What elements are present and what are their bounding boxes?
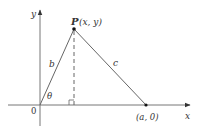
origin-label: 0	[31, 106, 36, 116]
right-angle-marker	[69, 100, 74, 105]
side-c-label: c	[113, 58, 118, 68]
side-b-label: b	[49, 59, 55, 69]
point-p-coords: (x, y)	[79, 17, 102, 27]
side-b-line	[40, 29, 74, 105]
point-a-label: (a, 0)	[136, 112, 159, 122]
y-axis-label: y	[30, 9, 37, 19]
triangle-diagram: y x 0 P (x, y) (a, 0) b c θ	[0, 0, 201, 128]
point-p-name: P	[70, 16, 79, 27]
x-axis-label: x	[185, 111, 190, 121]
side-c-line	[74, 29, 146, 105]
angle-theta-label: θ	[47, 91, 52, 101]
point-a-dot	[144, 103, 147, 106]
point-p-dot	[72, 27, 76, 31]
